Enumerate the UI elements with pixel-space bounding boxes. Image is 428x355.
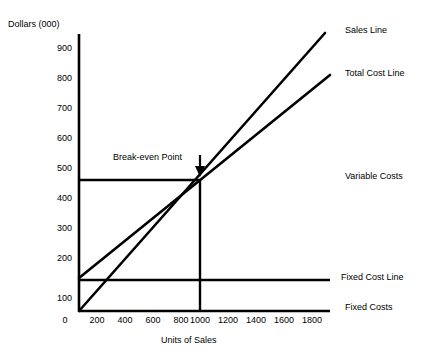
y-axis-title: Dollars (000) [8, 19, 60, 29]
series-label-fixed-cost-line: Fixed Cost Line [341, 272, 404, 282]
breakeven-arrow-icon [195, 155, 205, 177]
y-tick-800: 800 [42, 73, 72, 83]
x-tick-0: 0 [50, 315, 80, 325]
breakeven-chart: Dollars (000) 900 800 700 600 500 400 30… [0, 0, 428, 355]
x-tick-1000: 1000 [185, 315, 215, 325]
series-label-fixed-costs: Fixed Costs [345, 302, 393, 312]
y-tick-100: 100 [42, 293, 72, 303]
total-cost-line [79, 75, 330, 278]
x-tick-1600: 1600 [269, 315, 299, 325]
breakeven-annotation-label: Break-even Point [113, 152, 182, 162]
y-tick-900: 900 [42, 43, 72, 53]
y-tick-200: 200 [42, 253, 72, 263]
y-tick-400: 400 [42, 193, 72, 203]
series-label-variable-costs: Variable Costs [345, 171, 403, 181]
x-tick-1200: 1200 [213, 315, 243, 325]
x-tick-600: 600 [138, 315, 168, 325]
x-tick-400: 400 [110, 315, 140, 325]
y-tick-700: 700 [42, 103, 72, 113]
x-tick-200: 200 [82, 315, 112, 325]
y-tick-500: 500 [42, 163, 72, 173]
y-tick-600: 600 [42, 133, 72, 143]
y-tick-300: 300 [42, 223, 72, 233]
x-tick-1800: 1800 [297, 315, 327, 325]
x-axis-title: Units of Sales [161, 335, 217, 345]
series-label-sales-line: Sales Line [345, 25, 387, 35]
x-tick-1400: 1400 [241, 315, 271, 325]
series-label-total-cost-line: Total Cost Line [345, 68, 405, 78]
